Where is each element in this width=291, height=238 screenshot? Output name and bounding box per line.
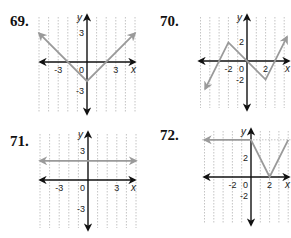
graph-72: 72. xy-222-20 bbox=[145, 120, 291, 238]
graph-71: 71. xy-333-30 bbox=[0, 120, 145, 238]
plot-71: xy-333-30 bbox=[0, 120, 145, 238]
x-tick-label: 2 bbox=[267, 180, 272, 190]
x-axis-label: x bbox=[130, 64, 137, 75]
plot-70: xy-222-20 bbox=[145, 0, 291, 120]
origin-label: 0 bbox=[243, 180, 248, 190]
x-tick-label: 2 bbox=[263, 64, 268, 74]
y-tick-label: -2 bbox=[236, 75, 244, 85]
y-axis-label: y bbox=[77, 129, 84, 140]
x-tick-label: 3 bbox=[114, 183, 119, 193]
y-tick-label: 3 bbox=[79, 28, 84, 38]
y-tick-label: -3 bbox=[76, 86, 84, 96]
y-tick-label: -2 bbox=[240, 191, 248, 201]
y-tick-label: 3 bbox=[80, 146, 85, 156]
y-tick-label: -3 bbox=[77, 204, 85, 214]
x-axis-label: x bbox=[284, 179, 291, 190]
origin-label: 0 bbox=[80, 183, 85, 193]
x-axis-label: x bbox=[284, 63, 291, 74]
y-tick-label: 2 bbox=[239, 37, 244, 47]
x-tick-label: -2 bbox=[224, 64, 232, 74]
plot-72: xy-222-20 bbox=[145, 120, 291, 238]
y-axis-label: y bbox=[240, 126, 247, 137]
graph-70: 70. xy-222-20 bbox=[145, 0, 291, 120]
plot-69: xy-333-30 bbox=[0, 0, 145, 120]
x-axis-label: x bbox=[130, 182, 137, 193]
x-tick-label: -3 bbox=[55, 183, 63, 193]
graph-69: 69. xy-333-30 bbox=[0, 0, 145, 120]
y-axis-label: y bbox=[76, 12, 83, 23]
origin-label: 0 bbox=[239, 64, 244, 74]
y-axis-label: y bbox=[236, 12, 243, 23]
x-tick-label: -2 bbox=[228, 180, 236, 190]
y-tick-label: 2 bbox=[243, 153, 248, 163]
x-tick-label: 3 bbox=[113, 65, 118, 75]
x-tick-label: -3 bbox=[54, 65, 62, 75]
